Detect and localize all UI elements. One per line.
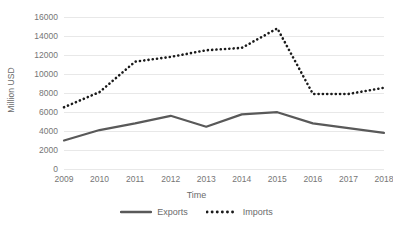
x-axis-tick-label: 2016 (303, 174, 322, 184)
x-axis-tick-label: 2012 (161, 174, 180, 184)
chart-legend: ExportsImports (0, 207, 393, 217)
x-axis-tick-label: 2011 (126, 174, 144, 184)
series-layer (64, 17, 384, 169)
x-axis-tick-label: 2015 (268, 174, 287, 184)
legend-swatch-exports-icon (120, 207, 152, 217)
y-axis-tick-label: 14000 (18, 32, 62, 41)
x-axis-title: Time (0, 190, 393, 200)
series-line-imports (64, 28, 384, 107)
legend-entry-exports[interactable]: Exports (120, 207, 188, 217)
y-axis-tick-label: 12000 (18, 51, 62, 60)
x-axis-tick-label: 2009 (55, 174, 74, 184)
legend-entry-imports[interactable]: Imports (206, 207, 273, 217)
x-axis-tick-label: 2018 (375, 174, 393, 184)
plot-area (64, 17, 384, 169)
y-axis-tick-label: 2000 (18, 146, 62, 155)
y-axis-title-text: Million USD (6, 67, 16, 113)
y-axis-tick-label: 16000 (18, 13, 62, 22)
y-axis-tick-label: 8000 (18, 89, 62, 98)
line-chart: Million USD 0200040006000800010000120001… (0, 0, 393, 235)
series-line-exports (64, 112, 384, 140)
legend-label: Imports (243, 208, 273, 217)
x-axis-tick-label: 2010 (90, 174, 109, 184)
y-axis-tick-labels: 0200040006000800010000120001400016000 (18, 0, 62, 180)
x-axis-tick-label: 2017 (339, 174, 358, 184)
y-axis-tick-label: 10000 (18, 70, 62, 79)
x-axis-tick-label: 2014 (232, 174, 251, 184)
legend-swatch-imports-icon (206, 207, 238, 217)
y-axis-tick-label: 4000 (18, 127, 62, 136)
x-axis-tick-label: 2013 (197, 174, 216, 184)
y-axis-tick-label: 0 (18, 165, 62, 174)
gridline (64, 169, 384, 170)
y-axis-tick-label: 6000 (18, 108, 62, 117)
x-axis-title-text: Time (187, 190, 207, 200)
legend-label: Exports (157, 208, 188, 217)
